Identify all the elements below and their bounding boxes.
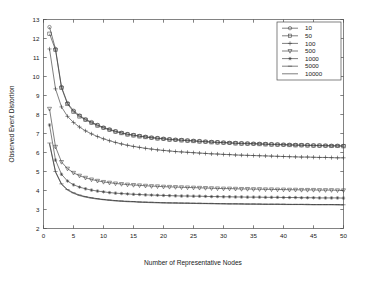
marker-star xyxy=(126,192,129,195)
y-axis-title: Observed Event Distortion xyxy=(8,85,15,162)
marker-star xyxy=(318,196,321,199)
y-tick-label: 3 xyxy=(36,206,40,213)
marker-star xyxy=(336,196,339,199)
marker-star xyxy=(162,194,165,197)
x-tick-label: 45 xyxy=(310,232,317,239)
marker-star xyxy=(150,193,153,196)
legend-label: 1000 xyxy=(305,55,319,62)
y-tick-label: 13 xyxy=(33,16,40,23)
marker-star xyxy=(288,196,291,199)
legend-label: 50 xyxy=(305,32,312,39)
marker-star xyxy=(306,196,309,199)
y-tick-label: 8 xyxy=(36,111,40,118)
y-tick-label: 2 xyxy=(36,225,40,232)
marker-star xyxy=(198,195,201,198)
x-tick-label: 35 xyxy=(250,232,257,239)
legend-label: 10000 xyxy=(305,70,323,77)
x-tick-label: 40 xyxy=(280,232,287,239)
x-axis-title: Number of Representative Nodes xyxy=(144,259,243,267)
marker-star xyxy=(102,190,105,193)
y-tick-label: 5 xyxy=(36,168,40,175)
marker-star xyxy=(294,196,297,199)
marker-star xyxy=(324,196,327,199)
marker-star xyxy=(282,196,285,199)
marker-star xyxy=(66,179,69,182)
marker-star xyxy=(132,193,135,196)
y-tick-label: 9 xyxy=(36,92,40,99)
x-tick-label: 50 xyxy=(340,232,347,239)
marker-star xyxy=(330,196,333,199)
legend-label: 100 xyxy=(305,40,316,47)
marker-star xyxy=(312,196,315,199)
marker-star xyxy=(264,196,267,199)
y-tick-label: 12 xyxy=(33,35,40,42)
marker-star xyxy=(228,195,231,198)
marker-star xyxy=(108,191,111,194)
legend-label: 10 xyxy=(305,24,312,31)
marker-star xyxy=(78,185,81,188)
marker-star xyxy=(114,191,117,194)
marker-star xyxy=(192,195,195,198)
y-tick-label: 6 xyxy=(36,149,40,156)
marker-star xyxy=(216,195,219,198)
y-tick-label: 7 xyxy=(36,130,40,137)
marker-star xyxy=(270,196,273,199)
x-tick-label: 30 xyxy=(220,232,227,239)
x-tick-label: 10 xyxy=(100,232,107,239)
marker-star xyxy=(156,194,159,197)
marker-star xyxy=(72,183,75,186)
marker-star xyxy=(288,57,291,60)
legend-label: 500 xyxy=(305,47,316,54)
y-tick-label: 10 xyxy=(33,73,40,80)
marker-star xyxy=(300,196,303,199)
x-tick-label: 0 xyxy=(42,232,46,239)
x-tick-label: 15 xyxy=(130,232,137,239)
x-tick-label: 20 xyxy=(160,232,167,239)
marker-star xyxy=(276,196,279,199)
marker-star xyxy=(204,195,207,198)
marker-star xyxy=(222,195,225,198)
marker-star xyxy=(210,195,213,198)
chart-canvas: 05101520253035404550 2345678910111213 Nu… xyxy=(0,0,372,303)
x-tick-label: 25 xyxy=(190,232,197,239)
y-tick-label: 11 xyxy=(33,54,40,61)
y-tick-label: 4 xyxy=(36,187,40,194)
chart-legend[interactable]: 10501005001000500010000 xyxy=(277,22,341,80)
x-tick-label: 5 xyxy=(72,232,76,239)
chart-figure: 05101520253035404550 2345678910111213 Nu… xyxy=(0,0,372,303)
legend-label: 5000 xyxy=(305,62,319,69)
